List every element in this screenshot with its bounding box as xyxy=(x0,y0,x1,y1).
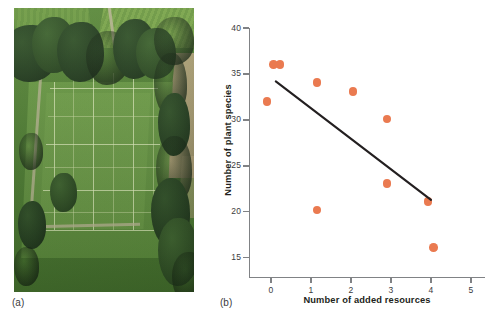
figure-container: (a) 152025303540 012345 Number of plant … xyxy=(0,0,492,325)
panel-b-caption: (b) xyxy=(220,297,232,308)
regression-line xyxy=(276,81,431,200)
panel-b-chart: 152025303540 012345 Number of plant spec… xyxy=(210,0,492,325)
trendline-group xyxy=(210,0,492,325)
aerial-photograph xyxy=(14,8,194,292)
photo-shading xyxy=(14,8,194,292)
scatter-plot: 152025303540 012345 Number of plant spec… xyxy=(210,0,492,325)
panel-a-photograph: (a) xyxy=(0,0,210,325)
y-axis-title: Number of plant species xyxy=(223,70,233,210)
photo-content xyxy=(14,8,194,292)
x-axis-title: Number of added resources xyxy=(249,295,485,305)
panel-a-caption: (a) xyxy=(12,297,24,308)
